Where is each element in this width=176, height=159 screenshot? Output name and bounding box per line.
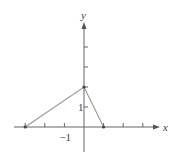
x-tick-label: −1 (59, 131, 71, 143)
series (24, 85, 106, 128)
data-point (24, 125, 27, 128)
x-axis-arrow-icon (153, 125, 160, 130)
x-axis-label: x (162, 121, 168, 133)
data-point (82, 85, 85, 88)
labels: x y −11 (59, 9, 168, 143)
series-line (25, 87, 103, 127)
y-axis-label: y (80, 9, 86, 21)
y-axis-arrow-icon (82, 22, 87, 29)
y-tick-label: 1 (78, 101, 84, 113)
data-point (102, 125, 105, 128)
coordinate-plot: x y −11 (0, 0, 176, 159)
